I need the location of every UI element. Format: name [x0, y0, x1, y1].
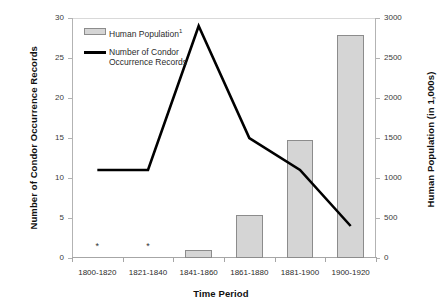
y-axis-right-tick-label: 500 [384, 214, 424, 222]
x-axis-tick-label: 1861-1880 [224, 268, 275, 277]
y-axis-left-tick-label: 10 [24, 174, 64, 182]
chart-container: Number of Condor Occurrence Records Huma… [0, 0, 442, 308]
y-axis-right-tick-label: 3000 [384, 14, 424, 22]
y-axis-right-title: Human Population (in 1,000s) [425, 50, 436, 230]
legend-item-condor-records: Number of Condor Occurrence Records [84, 47, 187, 67]
y-axis-left-tick-label: 20 [24, 94, 64, 102]
y-axis-right-tick-label: 2000 [384, 94, 424, 102]
y-axis-left-tick-label: 0 [24, 254, 64, 262]
y-axis-right-tick-label: 0 [384, 254, 424, 262]
legend-line-swatch-icon [84, 51, 106, 54]
y-axis-right-tick [376, 178, 380, 179]
x-axis-tick [376, 257, 377, 262]
x-axis-tick-label: 1900-1920 [325, 268, 376, 277]
y-axis-left-tick-label: 15 [24, 134, 64, 142]
y-axis-right-tick [376, 58, 380, 59]
legend-item-human-population: Human Population1 [84, 26, 187, 39]
y-axis-left-tick-label: 25 [24, 54, 64, 62]
y-axis-right-tick [376, 218, 380, 219]
x-axis-tick-label: 1821-1840 [123, 268, 174, 277]
x-axis-tick-label: 1800-1820 [72, 268, 123, 277]
y-axis-right-tick-label: 2500 [384, 54, 424, 62]
y-axis-right-tick [376, 98, 380, 99]
legend-bar-swatch-icon [84, 28, 106, 35]
y-axis-right-tick-label: 1000 [384, 174, 424, 182]
chart-legend: Human Population1 Number of Condor Occur… [84, 26, 187, 75]
y-axis-right-tick-label: 1500 [384, 134, 424, 142]
y-axis-right-tick [376, 138, 380, 139]
x-axis-title: Time Period [0, 288, 442, 299]
legend-label-condor-records: Number of Condor Occurrence Records [109, 47, 187, 67]
y-axis-left-tick-label: 5 [24, 214, 64, 222]
legend-label-human-population: Human Population1 [109, 26, 182, 39]
x-axis-tick-label: 1841-1860 [173, 268, 224, 277]
x-axis-tick-label: 1881-1900 [275, 268, 326, 277]
y-axis-right-tick [376, 18, 380, 19]
y-axis-left-tick-label: 30 [24, 14, 64, 22]
